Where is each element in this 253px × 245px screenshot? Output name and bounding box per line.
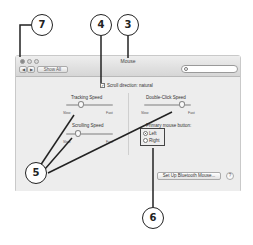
callout-3: 3 xyxy=(117,14,139,36)
section-divider xyxy=(128,93,129,155)
search-icon xyxy=(184,67,188,71)
tracking-speed-slider[interactable] xyxy=(66,104,113,106)
scrolling-speed-label: Scrolling Speed xyxy=(72,123,104,128)
double-click-speed-thumb[interactable] xyxy=(179,101,185,108)
callout-4: 4 xyxy=(90,14,112,36)
mouse-preferences-window: Mouse ◀ ▶ Show All ✓ Scroll direction: n… xyxy=(15,55,241,191)
preferences-content: ✓ Scroll direction: natural Tracking Spe… xyxy=(16,77,240,191)
scrolling-speed-thumb[interactable] xyxy=(75,130,81,137)
scroll-direction-checkbox[interactable]: ✓ xyxy=(100,83,105,88)
back-arrow-icon: ◀ xyxy=(22,67,25,72)
show-all-button[interactable]: Show All xyxy=(37,66,68,73)
right-radio[interactable] xyxy=(143,138,148,143)
tracking-speed-thumb[interactable] xyxy=(78,101,84,108)
scrolling-fast-label: Fast xyxy=(106,140,113,144)
title-bar: Mouse ◀ ▶ Show All xyxy=(16,56,240,77)
forward-arrow-icon: ▶ xyxy=(30,67,33,72)
left-radio[interactable] xyxy=(143,131,148,136)
set-up-bluetooth-mouse-button[interactable]: Set Up Bluetooth Mouse... xyxy=(157,172,221,180)
help-button[interactable]: ? xyxy=(226,172,234,180)
callout-7: 7 xyxy=(31,14,53,36)
double-click-slow-label: Slow xyxy=(141,111,149,115)
scrolling-speed-slider[interactable] xyxy=(66,133,113,135)
double-click-speed-label: Double-Click Speed xyxy=(146,95,186,100)
checkmark-icon: ✓ xyxy=(101,83,104,88)
scroll-direction-label: Scroll direction: natural xyxy=(107,83,153,88)
left-radio-label: Left xyxy=(149,131,157,136)
tracking-slow-label: Slow xyxy=(63,111,71,115)
tracking-speed-label: Tracking Speed xyxy=(71,95,102,100)
right-radio-label: Right xyxy=(149,138,160,143)
tracking-fast-label: Fast xyxy=(106,111,113,115)
window-title: Mouse xyxy=(16,58,240,64)
back-button[interactable]: ◀ xyxy=(19,66,27,73)
search-field[interactable] xyxy=(181,65,238,73)
callout-6: 6 xyxy=(142,207,164,229)
forward-button[interactable]: ▶ xyxy=(27,66,35,73)
double-click-fast-label: Fast xyxy=(188,111,195,115)
callout-5: 5 xyxy=(25,162,47,184)
scrolling-slow-label: Slow xyxy=(63,140,71,144)
